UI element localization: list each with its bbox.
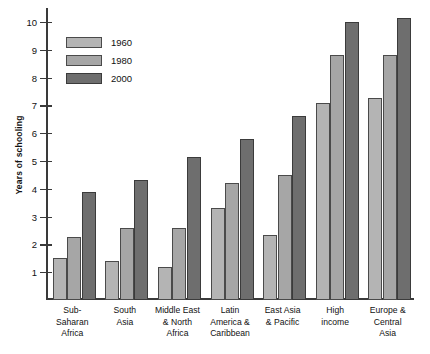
x-axis-labels: Sub-SaharanAfricaSouthAsiaMiddle East& N… [46,305,414,353]
bar-1960 [263,235,277,300]
bar-1980 [225,183,239,300]
x-axis-label: Europe &CentralAsia [357,305,418,340]
bar-1980 [383,55,397,300]
x-axis-label: Middle East& NorthAfrica [147,305,208,340]
legend-label-1980: 1980 [111,55,132,66]
bar-1960 [105,261,119,300]
x-axis-label-line: America & [200,317,261,329]
legend-label-2000: 2000 [111,73,132,84]
y-tick-label: 5 [32,155,37,166]
x-axis-label: Highincome [305,305,366,328]
bar-1980 [120,228,134,300]
y-tick-label: 4 [32,183,37,194]
x-axis-label-line: Middle East [147,305,208,317]
x-axis-label-line: & North [147,317,208,329]
bar-chart: Years of schooling 12345678910 Sub-Sahar… [0,0,430,354]
x-axis-label-line: Central [357,317,418,329]
bar-2000 [240,139,254,300]
bar-2000 [82,192,96,300]
x-axis-label: Sub-SaharanAfrica [42,305,103,340]
x-axis-label-line: Saharan [42,317,103,329]
y-tick-label: 1 [32,267,37,278]
x-axis-label-line: Sub- [42,305,103,317]
y-tick-label: 6 [32,128,37,139]
y-tick-label: 7 [32,100,37,111]
y-tick-label: 3 [32,211,37,222]
bar-group [158,8,201,300]
x-axis-label-line: income [305,317,366,329]
legend-swatch-2000 [66,73,102,84]
bar-group [211,8,254,300]
x-axis-label: East Asia& Pacific [252,305,313,328]
bar-1960 [368,98,382,300]
x-axis-label-line: High [305,305,366,317]
bar-1980 [330,55,344,300]
x-axis-label-line: Africa [42,328,103,340]
bar-2000 [134,180,148,300]
y-tick-label: 10 [26,16,37,27]
x-axis-label: SouthAsia [95,305,156,328]
x-axis-label-line: South [95,305,156,317]
bar-2000 [397,18,411,300]
bar-1980 [67,237,81,300]
bar-1960 [211,208,225,300]
x-axis-label-line: & Pacific [252,317,313,329]
x-axis-label-line: Europe & [357,305,418,317]
x-axis-label: LatinAmerica &Caribbean [200,305,261,340]
legend-item-2000: 2000 [66,71,132,85]
legend-item-1980: 1980 [66,53,132,67]
legend-swatch-1960 [66,37,102,48]
bar-2000 [292,116,306,300]
x-axis-label-line: Africa [147,328,208,340]
bar-group [316,8,359,300]
bar-group [368,8,411,300]
x-axis-label-line: Asia [357,328,418,340]
x-axis-label-line: Latin [200,305,261,317]
x-axis-label-line: Caribbean [200,328,261,340]
x-axis-label-line: East Asia [252,305,313,317]
bar-group [263,8,306,300]
chart-legend: 1960 1980 2000 [66,35,132,89]
x-axis-label-line: Asia [95,317,156,329]
y-tick-label: 2 [32,239,37,250]
bar-1960 [316,103,330,300]
bar-1960 [158,267,172,300]
bar-1960 [53,258,67,300]
bar-2000 [345,22,359,300]
bar-1980 [172,228,186,300]
bar-2000 [187,157,201,300]
y-tick-label: 9 [32,44,37,55]
legend-item-1960: 1960 [66,35,132,49]
y-tick-label: 8 [32,72,37,83]
bar-1980 [278,175,292,300]
y-axis-title: Years of schooling [14,95,24,215]
legend-label-1960: 1960 [111,37,132,48]
legend-swatch-1980 [66,55,102,66]
